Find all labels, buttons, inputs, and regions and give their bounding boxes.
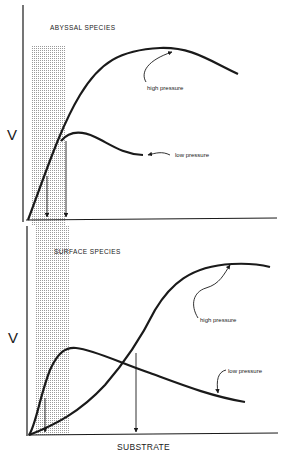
label-low-pressure: low pressure	[175, 152, 210, 158]
physiological-range-band-lower	[36, 225, 70, 436]
label-high-pressure: high pressure	[200, 317, 237, 323]
pointer-low-pressure	[217, 370, 226, 393]
pointer-high-pressure	[144, 52, 172, 82]
pointer-low-pressure	[148, 153, 170, 155]
x-axis-label: SUBSTRATE	[117, 442, 170, 452]
curve-low-pressure	[61, 133, 143, 155]
y-axis-label: V	[8, 329, 18, 346]
label-high-pressure: high pressure	[147, 85, 184, 91]
panel-title: ABYSSAL SPECIES	[50, 24, 116, 31]
panel-title: SURFACE SPECIES	[54, 248, 121, 255]
label-low-pressure: low pressure	[228, 368, 263, 374]
pointer-high-pressure	[194, 265, 230, 318]
enzyme-kinetics-diagram: V ABYSSAL SPECIES high pressure low pres…	[0, 0, 282, 457]
y-axis-label: V	[7, 126, 17, 143]
